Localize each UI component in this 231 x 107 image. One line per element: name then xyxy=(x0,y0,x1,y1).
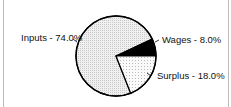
label-wages: Wages - 8.0% xyxy=(162,34,221,45)
pie-chart xyxy=(0,0,231,107)
label-inputs: Inputs - 74.0% xyxy=(21,32,82,43)
label-surplus: Surplus - 18.0% xyxy=(157,70,225,81)
